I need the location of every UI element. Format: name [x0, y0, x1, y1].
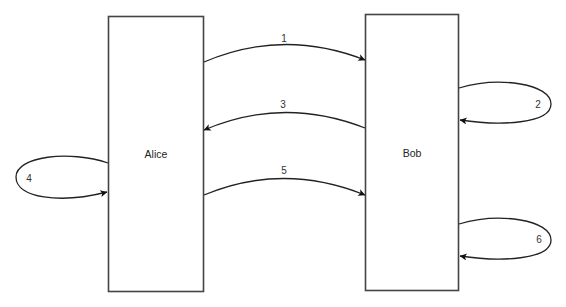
actor-bob[interactable]: Bob: [366, 15, 459, 291]
message-1[interactable]: 1: [204, 33, 365, 62]
message-3[interactable]: 3: [204, 99, 365, 130]
message-2-label: 2: [535, 99, 541, 110]
actor-bob-label: Bob: [403, 147, 422, 159]
message-1-arrow: [204, 44, 365, 62]
message-6-label: 6: [536, 234, 542, 245]
actor-alice-label: Alice: [145, 148, 168, 160]
message-3-label: 3: [280, 99, 286, 110]
message-5-label: 5: [281, 165, 287, 176]
message-4[interactable]: 4: [16, 156, 108, 198]
message-4-label: 4: [26, 173, 32, 184]
message-2[interactable]: 2: [459, 82, 551, 123]
message-1-label: 1: [281, 33, 287, 44]
actor-alice[interactable]: Alice: [109, 17, 204, 292]
message-3-arrow: [204, 112, 365, 130]
message-5[interactable]: 5: [204, 165, 365, 195]
diagram-canvas: Alice Bob 1 2 3 4 5 6: [0, 0, 566, 307]
message-6[interactable]: 6: [459, 218, 551, 259]
message-5-arrow: [204, 179, 365, 196]
